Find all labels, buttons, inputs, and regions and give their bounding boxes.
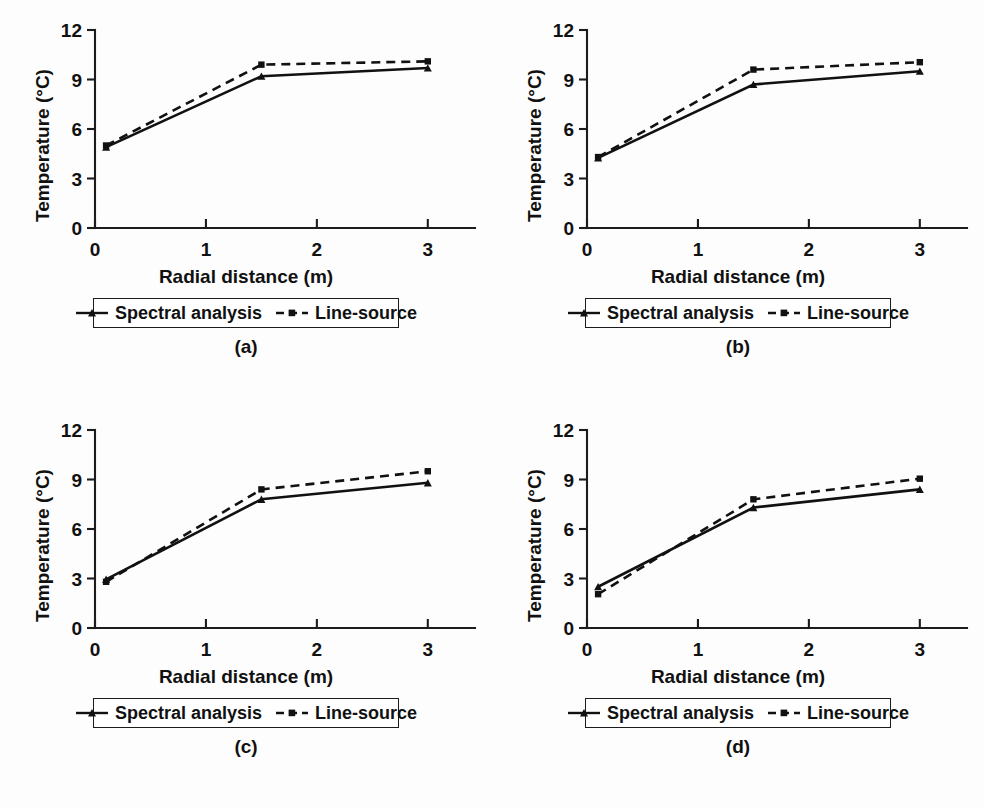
legend-label-spectral-analysis: Spectral analysis <box>115 303 262 324</box>
x-tick-label: 3 <box>915 639 926 660</box>
legend-entry-line-source: Line-source <box>275 303 417 324</box>
legend-swatch-spectral-analysis <box>75 306 109 320</box>
y-tick-label: 3 <box>563 169 574 190</box>
chart-panel-c: 0369120123Temperature (°C)Radial distanc… <box>0 400 492 809</box>
x-tick-label: 0 <box>90 239 101 260</box>
series-line-line-source <box>106 61 428 145</box>
chart-panel-d: 0369120123Temperature (°C)Radial distanc… <box>492 400 984 809</box>
data-point-line-source <box>750 66 756 72</box>
x-tick-label: 2 <box>312 239 323 260</box>
y-tick-label: 12 <box>61 20 82 41</box>
x-tick-label: 3 <box>423 239 434 260</box>
y-tick-label: 3 <box>71 569 82 590</box>
legend-entry-spectral-analysis: Spectral analysis <box>567 303 754 324</box>
y-tick-label: 6 <box>71 519 82 540</box>
data-point-line-source <box>425 468 431 474</box>
x-tick-label: 2 <box>804 639 815 660</box>
data-point-line-source <box>595 154 601 160</box>
legend-label-spectral-analysis: Spectral analysis <box>607 303 754 324</box>
data-point-line-source <box>103 579 109 585</box>
legend-swatch-line-source <box>767 306 801 320</box>
plot-area-a: 0369120123 <box>0 0 492 300</box>
data-point-line-source <box>595 591 601 597</box>
y-tick-label: 12 <box>553 420 574 441</box>
figure-root: 0369120123Temperature (°C)Radial distanc… <box>0 0 984 809</box>
x-tick-label: 3 <box>915 239 926 260</box>
y-tick-label: 9 <box>71 70 82 91</box>
data-point-line-source <box>917 475 923 481</box>
x-tick-label: 0 <box>582 639 593 660</box>
data-point-line-source <box>750 496 756 502</box>
plot-area-c: 0369120123 <box>0 400 492 700</box>
panel-caption-b: (b) <box>492 336 984 358</box>
legend-label-line-source: Line-source <box>807 303 909 324</box>
y-tick-label: 12 <box>61 420 82 441</box>
x-tick-label: 1 <box>693 239 704 260</box>
plot-area-b: 0369120123 <box>492 0 984 300</box>
y-tick-label: 0 <box>71 618 82 639</box>
x-tick-label: 3 <box>423 639 434 660</box>
panel-caption-d: (d) <box>492 736 984 758</box>
legend-label-spectral-analysis: Spectral analysis <box>607 703 754 724</box>
legend-entry-spectral-analysis: Spectral analysis <box>75 303 262 324</box>
legend-entry-spectral-analysis: Spectral analysis <box>567 703 754 724</box>
series-line-spectral <box>598 71 920 158</box>
series-line-spectral <box>106 483 428 580</box>
y-tick-label: 12 <box>553 20 574 41</box>
y-tick-label: 6 <box>563 519 574 540</box>
chart-legend: Spectral analysisLine-source <box>585 698 891 728</box>
series-line-line-source <box>598 62 920 157</box>
legend-entry-line-source: Line-source <box>275 703 417 724</box>
legend-entry-line-source: Line-source <box>767 703 909 724</box>
x-tick-label: 2 <box>804 239 815 260</box>
y-tick-label: 6 <box>71 119 82 140</box>
x-tick-label: 1 <box>201 239 212 260</box>
legend-entry-line-source: Line-source <box>767 303 909 324</box>
y-axis-title: Temperature (°C) <box>524 69 546 222</box>
x-tick-label: 1 <box>693 639 704 660</box>
legend-label-line-source: Line-source <box>315 303 417 324</box>
data-point-line-source <box>103 142 109 148</box>
legend-swatch-spectral-analysis <box>567 706 601 720</box>
chart-panel-a: 0369120123Temperature (°C)Radial distanc… <box>0 0 492 400</box>
series-line-spectral <box>106 68 428 147</box>
y-tick-label: 0 <box>563 218 574 239</box>
y-tick-label: 6 <box>563 119 574 140</box>
y-tick-label: 9 <box>563 470 574 491</box>
data-point-line-source <box>258 61 264 67</box>
y-tick-label: 3 <box>563 569 574 590</box>
data-point-line-source <box>425 58 431 64</box>
chart-legend: Spectral analysisLine-source <box>585 298 891 328</box>
data-point-line-source <box>258 486 264 492</box>
chart-panel-b: 0369120123Temperature (°C)Radial distanc… <box>492 0 984 400</box>
chart-legend: Spectral analysisLine-source <box>93 298 399 328</box>
y-axis-title: Temperature (°C) <box>32 469 54 622</box>
legend-swatch-line-source <box>767 706 801 720</box>
x-axis-title: Radial distance (m) <box>492 666 984 688</box>
legend-label-spectral-analysis: Spectral analysis <box>115 703 262 724</box>
x-tick-label: 0 <box>582 239 593 260</box>
legend-swatch-line-source <box>275 706 309 720</box>
x-axis-title: Radial distance (m) <box>492 266 984 288</box>
legend-entry-spectral-analysis: Spectral analysis <box>75 703 262 724</box>
panel-caption-c: (c) <box>0 736 492 758</box>
y-axis-title: Temperature (°C) <box>524 469 546 622</box>
x-tick-label: 1 <box>201 639 212 660</box>
chart-legend: Spectral analysisLine-source <box>93 698 399 728</box>
y-axis-title: Temperature (°C) <box>32 69 54 222</box>
data-point-line-source <box>917 59 923 65</box>
x-axis-title: Radial distance (m) <box>0 666 492 688</box>
y-tick-label: 3 <box>71 169 82 190</box>
legend-swatch-line-source <box>275 306 309 320</box>
y-tick-label: 9 <box>71 470 82 491</box>
y-tick-label: 0 <box>563 618 574 639</box>
x-axis-title: Radial distance (m) <box>0 266 492 288</box>
x-tick-label: 2 <box>312 639 323 660</box>
legend-label-line-source: Line-source <box>807 703 909 724</box>
y-tick-label: 0 <box>71 218 82 239</box>
x-tick-label: 0 <box>90 639 101 660</box>
series-line-line-source <box>598 479 920 595</box>
plot-area-d: 0369120123 <box>492 400 984 700</box>
legend-swatch-spectral-analysis <box>567 306 601 320</box>
y-tick-label: 9 <box>563 70 574 91</box>
